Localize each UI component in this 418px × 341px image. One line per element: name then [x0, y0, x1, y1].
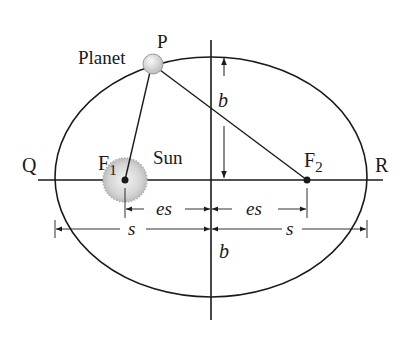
- focus-1-subscript: 1: [109, 162, 117, 178]
- orbit-svg: [0, 0, 418, 341]
- planet-label: Planet: [78, 48, 126, 67]
- s-left-label: s: [128, 219, 135, 238]
- focus-1-letter: F: [98, 152, 109, 174]
- focus-1-label: F1: [98, 153, 117, 173]
- point-p-label: P: [157, 32, 168, 51]
- point-q-label: Q: [22, 155, 36, 175]
- orbit-diagram: Planet P Sun Q R F1 F2 b b es es s s: [0, 0, 418, 341]
- focus-2-label: F2: [304, 150, 323, 170]
- point-r-label: R: [375, 155, 388, 175]
- es-left-label: es: [156, 199, 172, 218]
- s-right-label: s: [286, 219, 293, 238]
- sun-label: Sun: [153, 148, 183, 167]
- b-top-label: b: [218, 90, 228, 110]
- focus-2-subscript: 2: [315, 159, 323, 175]
- focus-2-letter: F: [304, 149, 315, 171]
- planet-icon: [143, 54, 163, 74]
- b-bottom-label: b: [219, 241, 229, 261]
- focus-2-dot: [304, 177, 311, 184]
- es-right-label: es: [246, 199, 262, 218]
- focus-1-dot: [122, 177, 129, 184]
